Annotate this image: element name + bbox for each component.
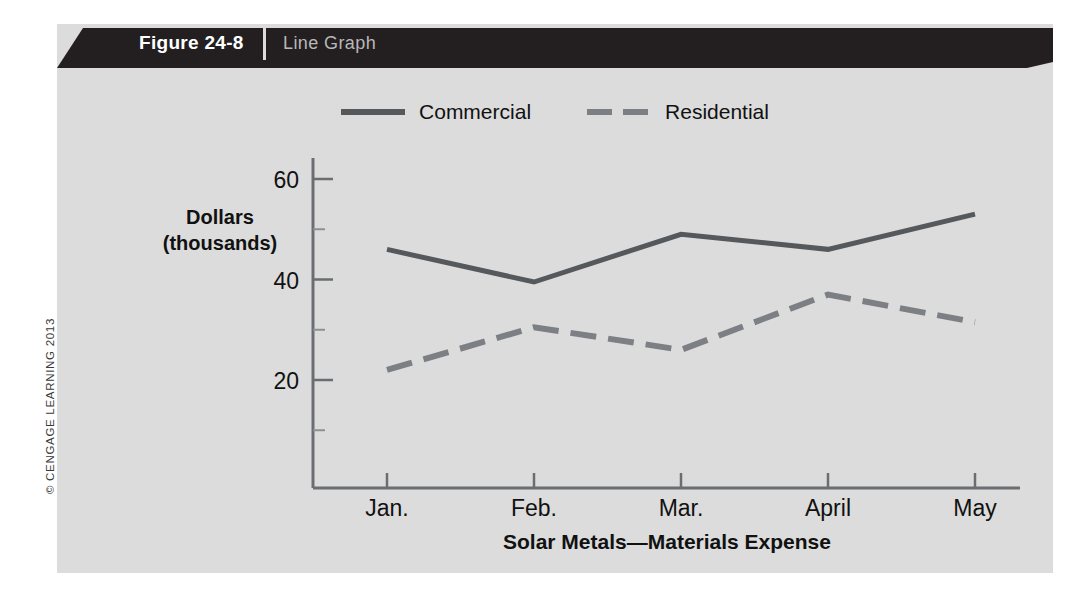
x-axis-ticks: Jan.Feb.Mar.AprilMay [365, 473, 997, 521]
legend-label-commercial: Commercial [419, 100, 531, 124]
y-axis-ticks: 204060 [273, 167, 333, 430]
legend-label-residential: Residential [665, 100, 769, 124]
x-axis-title: Solar Metals—Materials Expense [503, 530, 831, 553]
legend-swatch-dashed-line-icon [587, 109, 651, 115]
y-axis-label-line1: Dollars [186, 206, 254, 228]
y-tick-label: 40 [273, 268, 299, 294]
x-tick-label: Mar. [659, 495, 704, 521]
y-axis-label-line2: (thousands) [163, 232, 277, 254]
figure-title: Line Graph [283, 33, 376, 54]
header-divider [263, 28, 266, 60]
x-tick-label: Jan. [365, 495, 408, 521]
x-tick-label: April [805, 495, 851, 521]
x-tick-label: May [953, 495, 997, 521]
y-tick-label: 60 [273, 167, 299, 193]
legend-item-residential: Residential [587, 100, 769, 124]
y-tick-label: 20 [273, 368, 299, 394]
series-line-residential [387, 295, 975, 370]
figure-number-label: Figure 24-8 [139, 32, 244, 54]
x-tick-label: Feb. [511, 495, 557, 521]
copyright-credit: © CENGAGE LEARNING 2013 [44, 286, 56, 526]
chart-legend: Commercial Residential [57, 100, 1053, 124]
legend-swatch-solid-line-icon [341, 109, 405, 115]
legend-item-commercial: Commercial [341, 100, 531, 124]
series-line-commercial [387, 214, 975, 282]
plot-area: Dollars (thousands) 204060 Jan.Feb.Mar.A… [57, 140, 1053, 560]
line-chart-svg: Dollars (thousands) 204060 Jan.Feb.Mar.A… [57, 140, 1053, 560]
